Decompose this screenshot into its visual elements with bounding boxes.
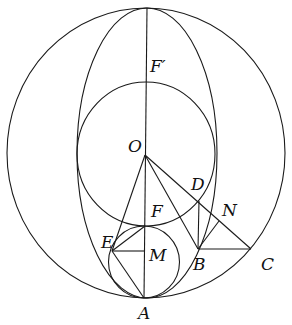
label-B: B xyxy=(192,254,206,274)
segment-EA xyxy=(112,251,144,298)
label-D: D xyxy=(190,174,205,194)
segment-OE xyxy=(112,155,145,251)
geometry-figure: O F′ F D N E M B C A xyxy=(0,0,292,325)
label-F-prime: F′ xyxy=(149,56,166,76)
label-E: E xyxy=(100,232,114,252)
label-C: C xyxy=(261,254,274,274)
segment-BN xyxy=(198,221,219,249)
label-O: O xyxy=(128,136,142,156)
label-F: F xyxy=(150,201,164,221)
label-M: M xyxy=(148,245,167,265)
label-N: N xyxy=(221,200,238,220)
label-A: A xyxy=(136,303,150,323)
segment-DB xyxy=(198,201,199,249)
diagram-canvas: O F′ F D N E M B C A xyxy=(0,0,292,325)
axis-vertical xyxy=(144,8,147,298)
